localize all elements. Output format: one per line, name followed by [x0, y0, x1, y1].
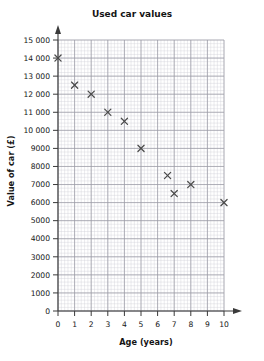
- x-tick-label: 5: [139, 320, 144, 329]
- y-tick-label: 3000: [31, 253, 50, 262]
- y-tick-label: 1000: [31, 289, 50, 298]
- y-tick-label: 10 000: [23, 126, 50, 135]
- x-tick-label: 10: [219, 320, 229, 329]
- y-tick-label: 4000: [31, 234, 50, 243]
- chart-title: Used car values: [92, 9, 172, 19]
- y-tick-label: 2000: [31, 271, 50, 280]
- y-tick-label: 6000: [31, 198, 50, 207]
- y-tick-label: 11 000: [23, 108, 50, 117]
- x-tick-label: 4: [122, 320, 127, 329]
- y-tick-label: 14 000: [23, 54, 50, 63]
- chart-canvas: Used car values 010002000300040005000600…: [0, 0, 264, 361]
- x-tick-label: 1: [72, 320, 77, 329]
- x-axis-title: Age (years): [119, 337, 173, 347]
- x-tick-label: 7: [172, 320, 177, 329]
- y-tick-label: 13 000: [23, 72, 50, 81]
- y-axis-title: Value of car (£): [6, 135, 16, 206]
- x-tick-label: 2: [89, 320, 94, 329]
- y-tick-label: 0: [45, 307, 50, 316]
- used-car-values-chart: Used car values 010002000300040005000600…: [0, 0, 264, 361]
- x-tick-label: 0: [56, 320, 61, 329]
- y-tick-label: 15 000: [23, 36, 50, 45]
- x-tick-label: 8: [188, 320, 193, 329]
- y-tick-label: 7000: [31, 180, 50, 189]
- y-tick-label: 12 000: [23, 90, 50, 99]
- x-tick-label: 6: [155, 320, 160, 329]
- y-tick-label: 8000: [31, 162, 50, 171]
- y-tick-label: 5000: [31, 216, 50, 225]
- x-tick-label: 9: [205, 320, 210, 329]
- x-tick-label: 3: [105, 320, 110, 329]
- y-tick-label: 9000: [31, 144, 50, 153]
